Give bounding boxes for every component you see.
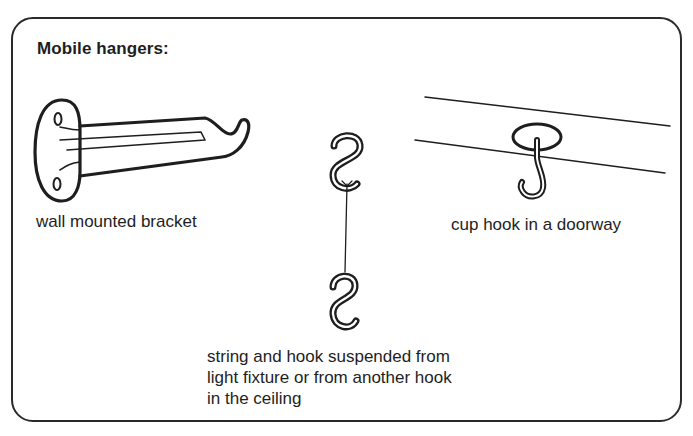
string-hook-label: string and hook suspended from light fix… bbox=[207, 346, 452, 409]
string-hook-label-line-2: light fixture or from another hook bbox=[207, 367, 452, 388]
diagram-title: Mobile hangers: bbox=[37, 39, 169, 59]
s-hook-icon bbox=[333, 136, 360, 327]
cup-hook-label: cup hook in a doorway bbox=[451, 214, 621, 235]
string-hook-label-line-1: string and hook suspended from bbox=[207, 346, 452, 367]
wall-bracket-label: wall mounted bracket bbox=[36, 211, 197, 232]
wall-bracket-icon bbox=[35, 100, 249, 201]
cup-hook-icon bbox=[415, 97, 670, 197]
string-hook-label-line-3: in the ceiling bbox=[207, 388, 452, 409]
